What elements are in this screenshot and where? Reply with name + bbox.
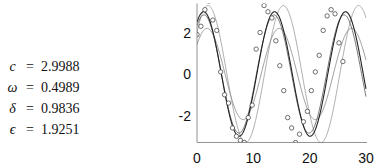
data-point — [203, 7, 207, 11]
data-point — [266, 10, 270, 14]
data-point — [321, 28, 325, 32]
data-point — [289, 126, 293, 130]
sine-fit-chart: 20-20102030 — [0, 0, 379, 168]
data-point — [234, 134, 238, 138]
data-point — [270, 16, 274, 20]
data-point — [262, 3, 266, 7]
data-point — [301, 120, 305, 124]
y-tick-label: 0 — [183, 66, 191, 82]
data-point — [313, 70, 317, 74]
x-tick-label: 0 — [193, 150, 201, 166]
data-point — [258, 30, 262, 34]
data-point — [207, 0, 211, 4]
data-point — [309, 88, 313, 92]
data-point — [337, 41, 341, 45]
x-tick-label: 10 — [246, 150, 262, 166]
data-point — [317, 53, 321, 57]
data-point — [282, 88, 286, 92]
data-point — [341, 59, 345, 63]
data-point — [325, 14, 329, 18]
data-point — [333, 12, 337, 16]
series-line-curve-2 — [197, 15, 366, 133]
data-point — [305, 109, 309, 113]
data-point — [250, 103, 254, 107]
data-point — [199, 24, 203, 28]
data-point — [246, 115, 250, 119]
data-point — [285, 115, 289, 119]
data-point — [211, 18, 215, 22]
series-line-fit — [197, 12, 366, 136]
x-tick-label: 30 — [358, 150, 374, 166]
y-tick-label: 2 — [183, 25, 191, 41]
data-point — [215, 28, 219, 32]
plot-area — [195, 0, 366, 145]
data-point — [218, 70, 222, 74]
y-tick-label: -2 — [179, 108, 192, 124]
data-point — [278, 63, 282, 67]
data-point — [222, 93, 226, 97]
data-point — [329, 7, 333, 11]
data-point — [274, 39, 278, 43]
x-tick-label: 20 — [302, 150, 318, 166]
data-point — [297, 132, 301, 136]
series-line-curve-4 — [197, 6, 366, 143]
data-point — [226, 101, 230, 105]
data-point — [254, 47, 258, 51]
data-point — [230, 126, 234, 130]
